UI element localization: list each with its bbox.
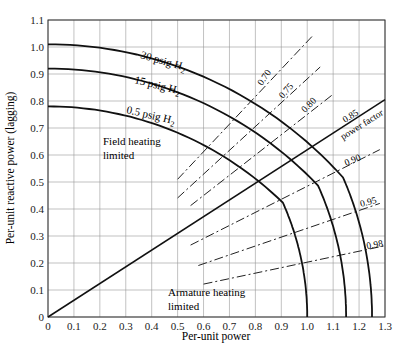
pf-095-label: 0.95 <box>359 195 378 209</box>
field-limited-label: limited <box>103 149 135 161</box>
pf-070-label: 0.70 <box>255 68 273 88</box>
pf-090-label: 0.90 <box>343 152 362 168</box>
y-tick: 0.7 <box>30 122 44 134</box>
pf-line-0.70 <box>178 36 313 179</box>
pf-098-label: 0.98 <box>366 238 384 251</box>
y-tick-labels: 00.10.20.30.40.50.60.70.80.91.01.1 <box>30 14 44 323</box>
pf-line-0.95 <box>198 203 379 265</box>
x-tick: 1.0 <box>300 320 314 332</box>
x-tick: 0.4 <box>145 320 159 332</box>
curve-0.85-power-factor <box>48 100 385 317</box>
field-heating-label: Field heating <box>103 135 161 147</box>
y-tick: 0.3 <box>30 230 44 242</box>
x-tick: 0.2 <box>93 320 107 332</box>
y-tick: 1.1 <box>30 14 44 26</box>
y-tick: 0.6 <box>30 149 44 161</box>
pf-line-0.98 <box>204 246 385 284</box>
x-tick: 1.3 <box>378 320 392 332</box>
curve-30-psig-h2 <box>48 44 372 317</box>
y-tick: 0.5 <box>30 176 44 188</box>
y-tick: 0.2 <box>30 257 44 269</box>
capability-chart: 00.10.20.30.40.50.60.70.80.91.01.11.21.3… <box>0 0 403 361</box>
pf-075-label: 0.75 <box>277 81 296 100</box>
x-tick: 0.8 <box>249 320 263 332</box>
x-tick: 0 <box>45 320 51 332</box>
curve-label-05psig: 0.5 psig H2 <box>125 103 177 129</box>
armature-heating-label: Armature heating <box>168 286 246 298</box>
y-tick: 0 <box>39 311 45 323</box>
y-tick: 0.1 <box>30 284 44 296</box>
x-tick: 1.2 <box>352 320 366 332</box>
curve-label-30psig: 30 psig H2 <box>139 48 188 75</box>
x-tick: 0.9 <box>274 320 288 332</box>
curve-label-15psig: 15 psig H2 <box>133 73 182 99</box>
pf-080-label: 0.80 <box>299 95 318 114</box>
armature-limited-label: limited <box>168 300 200 312</box>
x-axis-label: Per-unit power <box>182 330 251 343</box>
y-tick: 0.9 <box>30 68 44 80</box>
x-tick: 0.1 <box>67 320 81 332</box>
pf-line-0.75 <box>178 67 321 198</box>
y-axis-label: Per-unit reactive power (lagging) <box>4 91 17 244</box>
y-tick: 1.0 <box>30 41 44 53</box>
x-tick: 0.3 <box>119 320 133 332</box>
y-tick: 0.4 <box>30 203 44 215</box>
x-tick: 1.1 <box>326 320 340 332</box>
y-tick: 0.8 <box>30 95 44 107</box>
capability-curves <box>48 44 385 317</box>
